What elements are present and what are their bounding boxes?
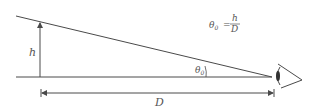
angular-size-diagram: h θ0 D θ0 = h D [0, 0, 316, 110]
height-label: h [29, 46, 36, 59]
formula-denominator: D [230, 24, 238, 34]
eye-icon [276, 64, 302, 88]
angle-label: θ0 [195, 65, 204, 76]
formula-numerator: h [232, 13, 238, 23]
distance-label: D [154, 96, 164, 109]
angle-arc [205, 66, 206, 77]
formula-lhs: θ0 [209, 20, 218, 31]
formula: θ0 = h D [209, 13, 240, 34]
formula-equals: = [223, 20, 231, 30]
